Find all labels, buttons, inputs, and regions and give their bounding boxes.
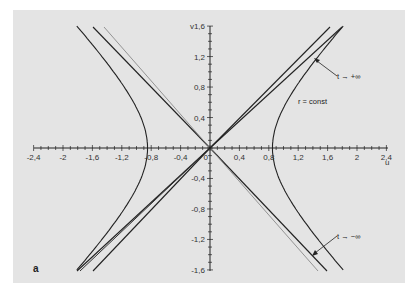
x-tick-label: -0,4 <box>174 153 188 162</box>
y-tick-label: 1,6 <box>194 22 206 31</box>
r-const-label: r = const <box>298 97 328 106</box>
x-tick-label: 0,4 <box>234 153 246 162</box>
x-tick-label: -1,2 <box>115 153 129 162</box>
x-tick-label: 1,6 <box>322 153 334 162</box>
y-tick-label: -1,6 <box>191 266 205 275</box>
x-tick-label: 2 <box>355 153 360 162</box>
asymptote-line-tl-dark <box>93 27 210 148</box>
y-tick-label: 1,2 <box>194 53 206 62</box>
y-tick-label: -1,2 <box>191 235 205 244</box>
y-axis-label: v <box>190 22 194 31</box>
x-tick-label: -0,8 <box>144 153 158 162</box>
x-tick-label: 1,2 <box>293 153 305 162</box>
asymptote-line-br-dark <box>210 148 327 271</box>
t-minus-leader <box>315 236 337 253</box>
x-axis-label: u <box>385 158 389 167</box>
x-tick-label: -1,6 <box>86 153 100 162</box>
y-tick-label: -0,8 <box>191 205 205 214</box>
asymptote-line-br-light <box>210 148 318 271</box>
hyperbola-diagram: -2,4-2-1,6-1,2-0,8-0,400,40,81,21,622,4 … <box>0 0 405 292</box>
x-tick-label: -2,4 <box>27 153 41 162</box>
asymptote-line-tr-2 <box>210 27 342 148</box>
asymptote-line-tr-1 <box>210 27 330 148</box>
x-tick-label: -2 <box>59 153 67 162</box>
t-plus-infinity-label: t → +∞ <box>337 72 360 81</box>
t-plus-leader <box>317 61 337 76</box>
y-tick-label: 0,8 <box>194 83 206 92</box>
panel-label: a <box>33 263 39 274</box>
x-tick-label: 0 <box>204 153 209 162</box>
x-tick-label: 0,8 <box>263 153 275 162</box>
t-minus-infinity-label: t → −∞ <box>337 232 360 241</box>
y-tick-label: 0,4 <box>194 114 206 123</box>
y-tick-label: -0,4 <box>191 174 205 183</box>
